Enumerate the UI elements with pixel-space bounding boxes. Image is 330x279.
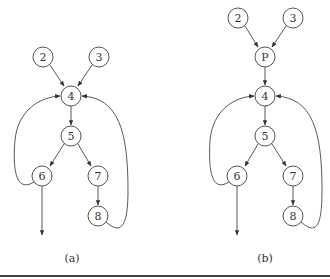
- node-b-6: 6: [227, 166, 247, 186]
- node-label: 6: [39, 170, 46, 183]
- node-label: 4: [68, 90, 75, 103]
- node-a-7: 7: [88, 166, 108, 186]
- node-a-6: 6: [32, 166, 52, 186]
- node-a-5: 5: [61, 126, 81, 146]
- node-b-8: 8: [283, 206, 303, 226]
- edge-3-to-P: [272, 26, 286, 47]
- edge-3-to-4: [78, 65, 92, 86]
- edge-5-to-7: [78, 144, 91, 166]
- node-b-3: 3: [283, 8, 303, 28]
- caption-a: (a): [64, 252, 79, 265]
- node-label: 4: [262, 90, 269, 103]
- node-b-2: 2: [228, 8, 248, 28]
- node-label: 5: [68, 130, 75, 143]
- node-label: 3: [290, 12, 297, 25]
- node-label: P: [261, 51, 269, 64]
- node-label: 3: [96, 51, 103, 64]
- node-b-7: 7: [283, 166, 303, 186]
- node-label: 6: [234, 170, 241, 183]
- node-label: 7: [290, 170, 297, 183]
- node-a-2: 2: [33, 47, 53, 67]
- node-b-4: 4: [255, 86, 275, 106]
- edge-5-to-7: [272, 144, 286, 166]
- node-label: 8: [95, 210, 102, 223]
- node-label: 5: [262, 130, 269, 143]
- node-b-P: P: [255, 47, 275, 67]
- bottom-rule: [0, 275, 330, 277]
- node-a-4: 4: [61, 86, 81, 106]
- node-a-8: 8: [88, 206, 108, 226]
- caption-b: (b): [257, 252, 273, 265]
- edge-5-to-6: [50, 144, 64, 166]
- node-label: 7: [95, 170, 102, 183]
- node-label: 8: [290, 210, 297, 223]
- edge-2-to-P: [245, 26, 258, 47]
- edge-5-to-6: [245, 144, 258, 166]
- node-a-3: 3: [89, 47, 109, 67]
- edge-2-to-4: [50, 65, 64, 86]
- panel-a: 2 3 4 5 6 7 8 (a): [14, 47, 128, 265]
- node-label: 2: [235, 12, 242, 25]
- flow-graph-figure: 2 3 4 5 6 7 8 (a) 2 3 P 4 5 6 7 8 (b): [0, 0, 330, 279]
- node-b-5: 5: [255, 126, 275, 146]
- node-label: 2: [40, 51, 47, 64]
- panel-b: 2 3 P 4 5 6 7 8 (b): [210, 8, 322, 265]
